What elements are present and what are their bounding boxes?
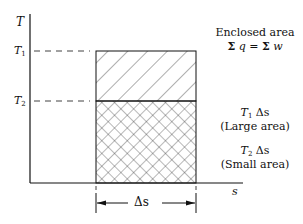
large-area-caption: (Large area) (210, 121, 300, 133)
delta-s-label: Δs (134, 196, 149, 208)
y-axis-label: T (16, 16, 24, 28)
lower-area-region (96, 101, 196, 183)
arrow-left-icon (97, 201, 106, 206)
enclosed-area-title: Enclosed area (210, 27, 300, 39)
x-axis-label: s (232, 186, 238, 198)
arrow-right-icon (186, 201, 195, 206)
t2-tick-label: T2 (14, 95, 26, 110)
small-area-caption: (Small area) (210, 159, 300, 171)
upper-area-region (96, 51, 196, 101)
t1-tick-label: T1 (14, 45, 26, 60)
enclosed-area-equation: Σ q = Σ w (210, 41, 300, 53)
